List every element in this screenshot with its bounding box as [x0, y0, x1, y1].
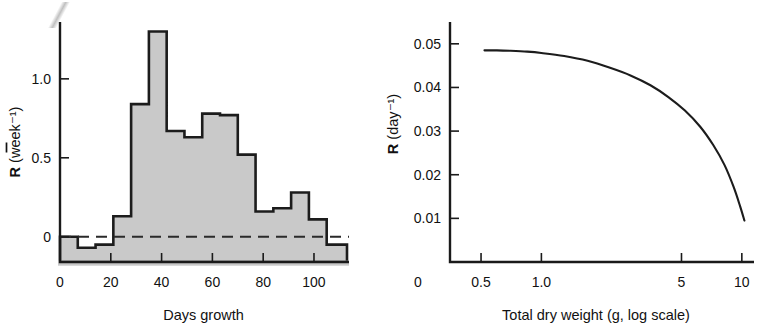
y-axis-units: (week⁻¹): [7, 107, 23, 167]
x-tick-label: 1.0: [532, 274, 552, 290]
y-tick-label: 0.01: [414, 210, 441, 226]
figure-root: 00.51.0020406080100Days growthR (week⁻¹)…: [0, 0, 764, 326]
x-tick-label: 0.5: [471, 274, 491, 290]
histogram-area: [60, 31, 347, 262]
y-tick-label: 0.05: [414, 36, 441, 52]
y-tick-label: 0: [43, 229, 51, 245]
curve-group: 0.010.020.030.040.050.51.05100Total dry …: [385, 22, 754, 323]
histogram-plot: 00.51.0020406080100Days growthR (week⁻¹): [0, 0, 382, 326]
x-tick-label: 100: [302, 274, 326, 290]
dry-weight-curve-panel: 0.010.020.030.040.050.51.05100Total dry …: [382, 0, 764, 326]
y-axis-symbol: R: [7, 166, 23, 177]
growth-rate-histogram-panel: 00.51.0020406080100Days growthR (week⁻¹): [0, 0, 382, 326]
axes-lines: [450, 22, 754, 262]
x-axis-title: Total dry weight (g, log scale): [502, 307, 690, 323]
x-tick-label: 5: [678, 274, 686, 290]
x-tick-label: 40: [154, 274, 170, 290]
x-tick-label: 60: [205, 274, 221, 290]
y-tick-label: 0.5: [32, 150, 52, 166]
curve-plot: 0.010.020.030.040.050.51.05100Total dry …: [382, 0, 764, 326]
y-axis-symbol: R: [385, 143, 401, 154]
x-tick-label: 20: [103, 274, 119, 290]
histogram-group: 00.51.0020406080100Days growthR (week⁻¹): [7, 22, 350, 323]
y-tick-label: 0.02: [414, 167, 441, 183]
y-axis-title: R (week⁻¹): [7, 107, 23, 178]
y-axis-title: R (day⁻¹): [385, 94, 401, 154]
y-axis-title-group: R (day⁻¹): [385, 94, 401, 154]
x-tick-label: 80: [255, 274, 271, 290]
decay-curve: [484, 50, 744, 220]
x-origin-label: 0: [414, 274, 422, 290]
x-tick-label: 0: [56, 274, 64, 290]
x-tick-label: 10: [734, 274, 750, 290]
y-tick-label: 0.03: [414, 123, 441, 139]
y-axis-units: (day⁻¹): [385, 94, 401, 144]
x-axis-title: Days growth: [163, 307, 244, 323]
y-tick-label: 0.04: [414, 79, 441, 95]
y-tick-label: 1.0: [32, 71, 52, 87]
y-axis-title-group: R (week⁻¹): [7, 107, 24, 178]
